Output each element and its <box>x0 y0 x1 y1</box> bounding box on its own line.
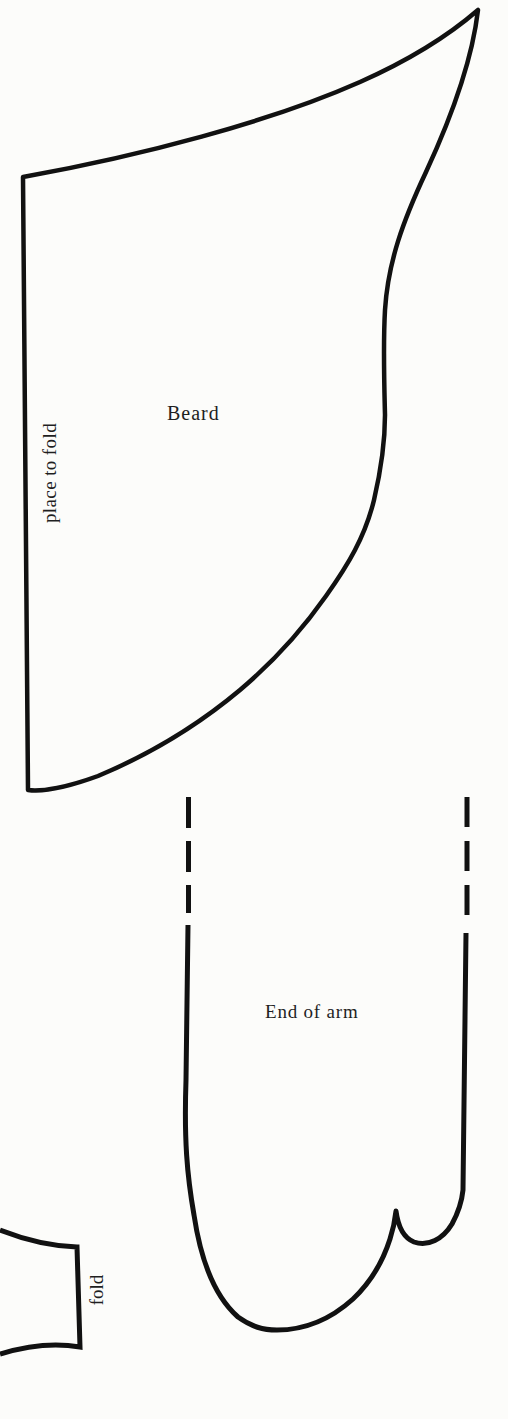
end-of-arm-piece-label: End of arm <box>265 1001 358 1023</box>
beard-fold-edge-label: place to fold <box>38 417 62 529</box>
pattern-page: Beard place to fold End of arm fold <box>0 0 508 1419</box>
fold-tab-label: fold <box>86 1270 108 1310</box>
pattern-outlines <box>0 0 508 1419</box>
beard-outline <box>23 10 478 790</box>
fold-tab-outline <box>0 1230 80 1354</box>
arm-outline <box>185 925 466 1330</box>
beard-piece-label: Beard <box>167 402 220 425</box>
